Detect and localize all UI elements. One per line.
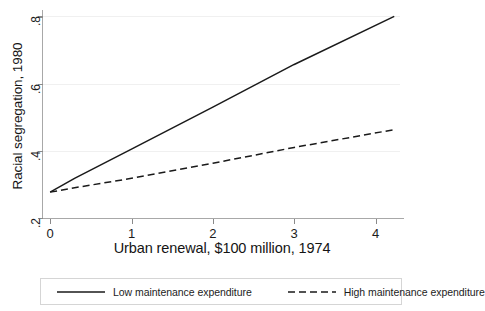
plot-area: .2.4.6.8 01234	[42, 8, 404, 218]
x-tick-label: 2	[209, 226, 216, 241]
legend-label-high-maintenance: High maintenance expenditure	[344, 286, 485, 298]
y-axis-title: Racial segregation, 1980	[4, 0, 30, 232]
y-tick-label: .6	[29, 84, 43, 94]
y-tick-label: .2	[29, 218, 43, 228]
x-tick-mark	[132, 219, 133, 224]
legend-item-high-maintenance: High maintenance expenditure	[288, 286, 485, 298]
x-tick-label: 3	[291, 226, 298, 241]
x-tick-label: 0	[46, 226, 53, 241]
series-layer	[42, 8, 404, 219]
x-tick-mark	[376, 219, 377, 224]
x-tick-label: 4	[372, 226, 379, 241]
x-tick-mark	[213, 219, 214, 224]
x-tick-mark	[50, 219, 51, 224]
legend-item-low-maintenance: Low maintenance expenditure	[57, 286, 252, 298]
y-tick-label: .4	[29, 151, 43, 161]
legend-label-low-maintenance: Low maintenance expenditure	[113, 286, 252, 298]
legend-swatch-solid-icon	[57, 287, 105, 297]
series-line-low-maintenance	[50, 16, 394, 192]
legend-swatch-dashed-icon	[288, 287, 336, 297]
x-axis-title: Urban renewal, $100 million, 1974	[42, 240, 402, 256]
x-tick-mark	[294, 219, 295, 224]
y-tick-label: .8	[29, 16, 43, 26]
chart-legend: Low maintenance expenditure High mainten…	[40, 278, 402, 305]
series-line-high-maintenance	[50, 130, 394, 193]
x-tick-label: 1	[128, 226, 135, 241]
